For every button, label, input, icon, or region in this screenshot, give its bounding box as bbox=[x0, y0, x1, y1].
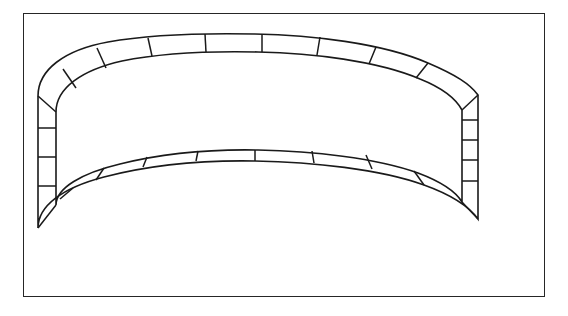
cell-divider-bottom-2 bbox=[366, 155, 372, 169]
cell-divider-top-6 bbox=[317, 37, 320, 55]
annular-band-group bbox=[38, 34, 478, 228]
cell-divider-top-3 bbox=[148, 38, 152, 56]
cell-divider-top-8 bbox=[416, 63, 428, 78]
segmented-band-diagram bbox=[0, 0, 568, 316]
figure-root: Segmented annular band diagram bbox=[0, 0, 568, 316]
cell-divider-top-7 bbox=[369, 47, 376, 64]
cell-divider-left-1 bbox=[38, 96, 56, 112]
band-inner-boundary bbox=[56, 52, 462, 205]
cell-divider-top-2 bbox=[97, 48, 106, 68]
cell-divider-top-4 bbox=[205, 34, 206, 52]
cell-divider-right-5 bbox=[462, 202, 478, 219]
cell-divider-top-9 bbox=[462, 95, 478, 110]
